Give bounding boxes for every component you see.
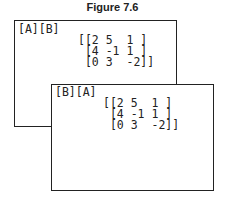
command-line: [B][A] xyxy=(55,87,97,98)
command-line: [A][B] xyxy=(18,24,60,35)
calculator-screen-ba: [B][A] [[2 5 1 ] [4 -1 1 ] [0 3 -2]] xyxy=(51,84,214,191)
matrix-row: [0 3 -2]] xyxy=(78,57,154,68)
figure-title: Figure 7.6 xyxy=(0,1,225,13)
matrix-row: [0 3 -2]] xyxy=(103,120,179,131)
